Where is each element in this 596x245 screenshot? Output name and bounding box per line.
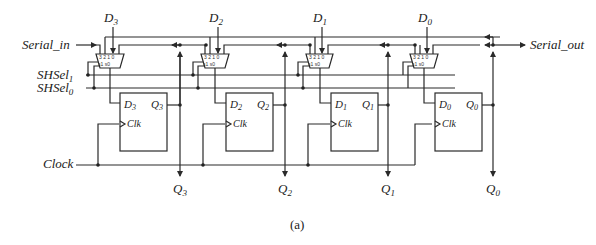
stage-0: D0 3 2 1 0 s1 s0 D0 Q0 Clk Q0 xyxy=(395,10,500,198)
q2-output-label: Q2 xyxy=(278,181,292,198)
figure-caption: (a) xyxy=(290,217,304,232)
svg-text:Clk: Clk xyxy=(442,118,456,129)
stage-1: D1 3 2 1 0 s1 s0 D1 Q1 Clk Q1 xyxy=(291,10,395,198)
serial-in-label: Serial_in xyxy=(22,37,70,52)
stage-2: D2 3 2 1 0 s1 s0 D2 Q2 Clk Q2 xyxy=(186,10,292,198)
svg-text:Clk: Clk xyxy=(127,118,141,129)
d0-input-label: D0 xyxy=(417,10,432,27)
svg-text:3 2 1 0: 3 2 1 0 xyxy=(309,54,325,60)
svg-text:Clk: Clk xyxy=(338,118,352,129)
d2-input-label: D2 xyxy=(208,10,223,27)
shift-register-diagram: Serial_in SHSel1 SHSel0 Clock D3 3 2 1 0… xyxy=(0,0,596,245)
stage-3: D3 3 2 1 0 s1 s0 D3 Q3 Clk Q3 xyxy=(86,10,187,198)
d3-input-label: D3 xyxy=(103,10,118,27)
svg-text:3 2 1 0: 3 2 1 0 xyxy=(99,54,115,60)
clock-label: Clock xyxy=(43,156,74,171)
serial-out-label: Serial_out xyxy=(530,37,585,52)
q3-output-label: Q3 xyxy=(173,181,187,198)
svg-text:3 2 1 0: 3 2 1 0 xyxy=(204,54,220,60)
shsel0-label: SHSel0 xyxy=(37,80,74,97)
q1-output-label: Q1 xyxy=(381,181,395,198)
q0-output-label: Q0 xyxy=(486,181,500,198)
d1-input-label: D1 xyxy=(312,10,327,27)
svg-text:Clk: Clk xyxy=(233,118,247,129)
svg-text:3 2 1 0: 3 2 1 0 xyxy=(413,54,429,60)
